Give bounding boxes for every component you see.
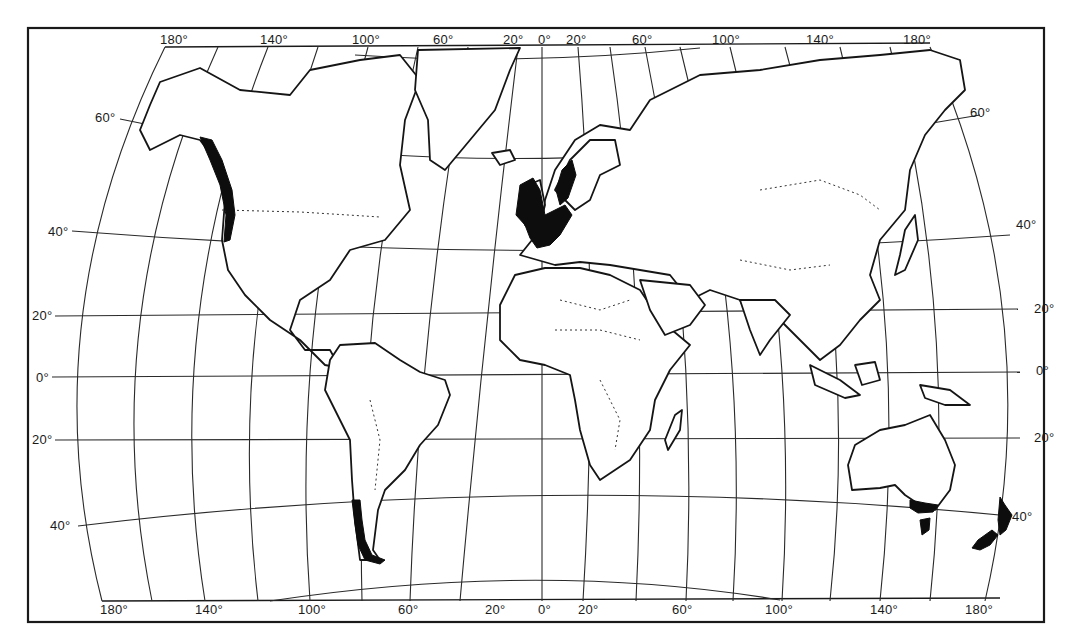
bottom-bar [102, 598, 1000, 601]
bottom-lon-label: 60° [672, 602, 693, 617]
bottom-lon-label: 180° [965, 602, 993, 617]
borneo [855, 362, 880, 385]
new-guinea [920, 385, 970, 405]
australia [848, 415, 955, 510]
continents [140, 48, 970, 560]
right-lat-label: 0° [1036, 363, 1049, 378]
bottom-lon-label: 140° [870, 602, 898, 617]
left-lat-label: 40° [48, 224, 69, 239]
top-lon-label: 60° [433, 32, 454, 47]
indonesia [810, 365, 860, 398]
bottom-lon-label: 100° [765, 602, 793, 617]
top-lon-label: 180° [903, 32, 931, 47]
japan [895, 215, 918, 275]
left-latitude-labels: 60° 40° 20° 0° 20° 40° [32, 110, 116, 533]
right-lat-label: 40° [1012, 509, 1033, 524]
top-lon-label: 180° [160, 32, 188, 47]
top-lon-label: 60° [632, 32, 653, 47]
right-latitude-labels: 60° 40° 20° 0° 20° 40° [970, 105, 1055, 524]
shaded-tasmania [920, 518, 930, 535]
iceland [492, 150, 515, 165]
top-lon-label: 20° [566, 32, 587, 47]
south-america [325, 343, 450, 560]
top-longitude-labels: 180° 140° 100° 60° 20° 0° 20° 60° 100° 1… [160, 32, 931, 47]
right-lat-label: 40° [1016, 217, 1037, 232]
bottom-lon-label: 0° [538, 602, 551, 617]
shaded-new-zealand-north [998, 497, 1012, 535]
bottom-lon-label: 140° [195, 602, 223, 617]
world-map: 180° 140° 100° 60° 20° 0° 20° 60° 100° 1… [0, 0, 1087, 644]
top-lon-label: 140° [260, 32, 288, 47]
top-lon-label: 100° [352, 32, 380, 47]
top-lon-label: 20° [503, 32, 524, 47]
india [740, 300, 790, 355]
left-lat-label: 20° [32, 308, 53, 323]
left-lat-label: 60° [95, 110, 116, 125]
north-america [140, 55, 420, 368]
bottom-lon-label: 20° [485, 602, 506, 617]
bottom-lon-label: 60° [398, 602, 419, 617]
bottom-lon-label: 180° [100, 602, 128, 617]
shaded-new-zealand-south [972, 530, 998, 550]
left-lat-label: 20° [32, 432, 53, 447]
top-lon-label: 100° [712, 32, 740, 47]
right-lat-label: 20° [1034, 301, 1055, 316]
left-lat-label: 40° [50, 518, 71, 533]
bottom-longitude-labels: 180° 140° 100° 60° 20° 0° 20° 60° 100° 1… [100, 602, 993, 617]
right-lat-label: 60° [970, 105, 991, 120]
bottom-lon-label: 20° [578, 602, 599, 617]
top-lon-label: 140° [806, 32, 834, 47]
madagascar [665, 410, 682, 450]
bottom-lon-label: 100° [298, 602, 326, 617]
left-lat-label: 0° [36, 370, 49, 385]
top-lon-label: 0° [538, 32, 551, 47]
right-lat-label: 20° [1034, 430, 1055, 445]
